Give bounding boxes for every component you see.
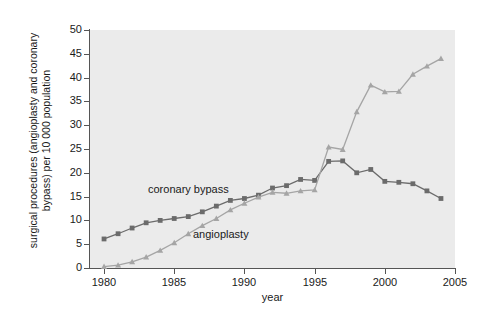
plot-area	[90, 30, 455, 268]
x-tick-label: 1980	[79, 276, 129, 288]
y-tick-mark	[84, 78, 89, 79]
x-tick-mark	[174, 269, 175, 274]
y-tick-mark	[84, 173, 89, 174]
x-tick-label: 1985	[149, 276, 199, 288]
y-tick-mark	[84, 54, 89, 55]
x-tick-mark	[455, 269, 456, 274]
y-axis-label: surgical procedures (angioplasty and cor…	[27, 16, 52, 266]
y-tick-mark	[84, 268, 89, 269]
x-tick-label: 2005	[430, 276, 480, 288]
x-tick-label: 1990	[219, 276, 269, 288]
y-tick-mark	[84, 30, 89, 31]
series-label-coronary-bypass: coronary bypass	[148, 183, 229, 195]
y-axis-line	[89, 29, 90, 269]
y-tick-mark	[84, 220, 89, 221]
x-tick-mark	[385, 269, 386, 274]
chart-figure: 05101520253035404550 1980198519901995200…	[0, 0, 499, 311]
y-tick-mark	[84, 244, 89, 245]
y-axis-label-line1: surgical procedures (angioplasty and cor…	[27, 33, 39, 248]
y-tick-mark	[84, 197, 89, 198]
y-tick-mark	[84, 149, 89, 150]
x-tick-label: 2000	[360, 276, 410, 288]
y-tick-mark	[84, 101, 89, 102]
y-tick-mark	[84, 125, 89, 126]
series-label-angioplasty: angioplasty	[193, 228, 249, 240]
x-tick-mark	[315, 269, 316, 274]
y-axis-label-line2: bypass) per 10 000 population	[39, 70, 51, 211]
x-tick-label: 1995	[290, 276, 340, 288]
x-axis-line	[89, 268, 456, 269]
x-tick-mark	[244, 269, 245, 274]
x-axis-label: year	[90, 291, 455, 303]
x-tick-mark	[104, 269, 105, 274]
